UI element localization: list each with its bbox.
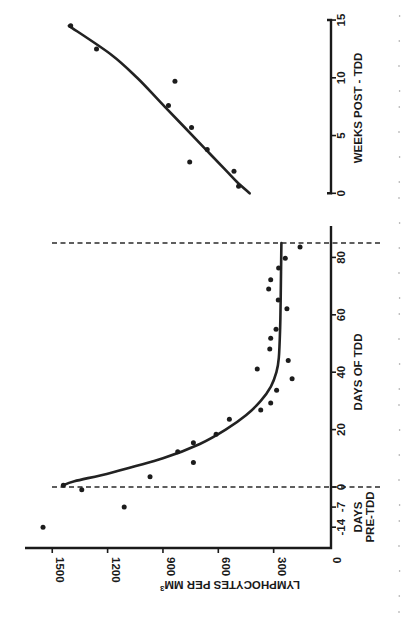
x-tick-label-day: 80 <box>335 251 347 264</box>
scan-dot <box>399 454 401 456</box>
scan-dot <box>399 222 401 224</box>
data-point-day <box>268 336 273 341</box>
scan-dot <box>398 611 400 613</box>
x-axis-title-pre-line2: PRE-TDD <box>364 491 376 542</box>
axis-ticks <box>52 20 336 553</box>
x-tick-label-week: 10 <box>335 71 347 84</box>
data-point-day <box>41 525 46 530</box>
x-tick-label-day: 40 <box>335 366 347 379</box>
data-point-day <box>191 440 196 445</box>
scan-dot <box>399 595 401 597</box>
scan-dot <box>399 297 401 299</box>
y-axis-title: LYMPHOCYTES PER MM3 <box>159 579 300 593</box>
data-point-week <box>172 79 177 84</box>
x-tick-label-day: 60 <box>335 308 347 321</box>
scan-artifact-dots <box>398 15 400 613</box>
lymphocyte-chart: LYMPHOCYTES PER MM3 DAYS OF TDD DAYS PRE… <box>0 0 401 626</box>
data-point-day <box>258 408 263 413</box>
scan-dot <box>399 15 401 17</box>
x-axis-title-weeks: WEEKS POST - TDD <box>352 53 364 164</box>
fit-curve-days <box>63 243 281 485</box>
y-tick-label: 1500 <box>54 557 66 583</box>
data-point-day <box>284 306 289 311</box>
scan-dot <box>399 156 401 158</box>
data-point-day <box>191 460 196 465</box>
scan-dot <box>399 520 401 522</box>
scan-dot <box>399 363 401 365</box>
y-tick-label: 300 <box>276 557 288 576</box>
data-point-week <box>166 103 171 108</box>
data-points <box>41 23 303 529</box>
data-point-day <box>214 432 219 437</box>
scan-dot <box>399 247 401 249</box>
data-point-day <box>61 483 66 488</box>
x-tick-label-day: 0 <box>335 484 347 490</box>
data-point-week <box>189 125 194 130</box>
data-point-day <box>267 346 272 351</box>
fit-curves <box>63 26 281 485</box>
scan-dot <box>398 197 400 199</box>
scan-dot <box>399 106 401 108</box>
data-point-week <box>68 23 73 28</box>
data-point-day <box>122 505 127 510</box>
data-point-day <box>298 245 303 250</box>
scan-dot <box>398 338 400 340</box>
x-tick-label-day: -7 <box>335 502 347 512</box>
data-point-day <box>274 327 279 332</box>
data-point-week <box>187 160 192 165</box>
y-tick-label: 600 <box>220 557 232 576</box>
scan-dot <box>399 429 401 431</box>
axes <box>25 20 331 548</box>
data-point-day <box>255 367 260 372</box>
scan-dot <box>398 272 400 274</box>
scan-dot <box>398 479 400 481</box>
x-tick-label-day: -14 <box>335 518 347 535</box>
data-point-day <box>268 400 273 405</box>
scan-dot <box>399 313 401 315</box>
data-point-day <box>79 487 84 492</box>
data-point-week <box>236 184 241 189</box>
weeks-axis <box>327 20 331 193</box>
x-tick-label-week: 0 <box>335 190 347 196</box>
x-axis-title-pre-line1: DAYS <box>352 501 364 532</box>
scan-dot <box>399 504 401 506</box>
x-axis-title-days: DAYS OF TDD <box>352 334 364 411</box>
scan-dot <box>398 131 400 133</box>
data-point-day <box>268 277 273 282</box>
data-point-day <box>148 474 153 479</box>
scan-dot <box>398 65 400 67</box>
data-point-day <box>175 449 180 454</box>
y-tick-label: 0 <box>331 557 343 563</box>
y-tick-label: 1200 <box>110 557 122 583</box>
scan-dot <box>399 181 401 183</box>
data-point-day <box>274 388 279 393</box>
scan-dot <box>399 40 401 42</box>
x-tick-label-day: 20 <box>335 423 347 436</box>
data-point-day <box>283 256 288 261</box>
scan-dot <box>398 545 400 547</box>
scan-dot <box>398 404 400 406</box>
axis-labels: LYMPHOCYTES PER MM3 DAYS OF TDD DAYS PRE… <box>54 13 376 593</box>
x-tick-label-week: 15 <box>335 13 347 26</box>
y-tick-label: 900 <box>165 557 177 576</box>
data-point-day <box>276 266 281 271</box>
scan-dot <box>399 570 401 572</box>
data-point-day <box>286 358 291 363</box>
x-tick-label-week: 5 <box>335 132 347 139</box>
scan-dot <box>399 90 401 92</box>
data-point-day <box>266 286 271 291</box>
data-point-day <box>276 297 281 302</box>
data-point-day <box>290 376 295 381</box>
data-point-week <box>94 46 99 51</box>
data-point-week <box>205 147 210 152</box>
days-axis-frame <box>25 226 331 548</box>
scan-dot <box>399 388 401 390</box>
data-point-day <box>227 417 232 422</box>
data-point-week <box>231 169 236 174</box>
